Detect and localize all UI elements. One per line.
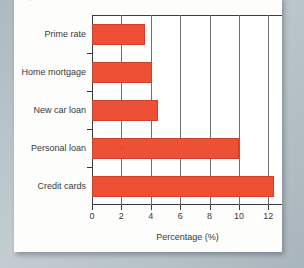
bars-group [92,15,282,205]
x-axis-tick-labels-group: 024681012 [92,211,282,223]
x-tick-2 [121,205,122,210]
bar-home-mortgage [92,62,152,83]
x-tick-label-6: 6 [170,211,190,221]
bar-credit-cards [92,176,274,197]
x-axis-title: Percentage (%) [92,232,282,242]
scanned-page-background: Figure Prime rateHome mortgageNew car lo… [0,0,304,268]
x-tick-label-12: 12 [258,211,278,221]
y-axis-label-credit-cards: Credit cards [14,181,86,191]
x-tick-label-4: 4 [141,211,161,221]
y-axis-label-prime-rate: Prime rate [14,29,86,39]
x-tick-label-10: 10 [229,211,249,221]
bar-personal-loan [92,138,239,159]
figure-card: Figure Prime rateHome mortgageNew car lo… [14,0,282,252]
y-axis-labels-group: Prime rateHome mortgageNew car loanPerso… [14,15,86,205]
bar-new-car-loan [92,100,158,121]
y-axis-label-new-car-loan: New car loan [14,105,86,115]
x-tick-label-8: 8 [200,211,220,221]
x-tick-label-2: 2 [111,211,131,221]
y-axis-label-personal-loan: Personal loan [14,143,86,153]
x-tick-4 [151,205,152,210]
bar-prime-rate [92,24,145,45]
x-tick-0 [92,205,93,210]
x-tick-label-0: 0 [82,211,102,221]
x-tick-10 [239,205,240,210]
x-tick-12 [268,205,269,210]
bar-chart: Prime rateHome mortgageNew car loanPerso… [14,0,282,252]
x-tick-8 [210,205,211,210]
x-tick-6 [180,205,181,210]
y-axis-label-home-mortgage: Home mortgage [14,67,86,77]
